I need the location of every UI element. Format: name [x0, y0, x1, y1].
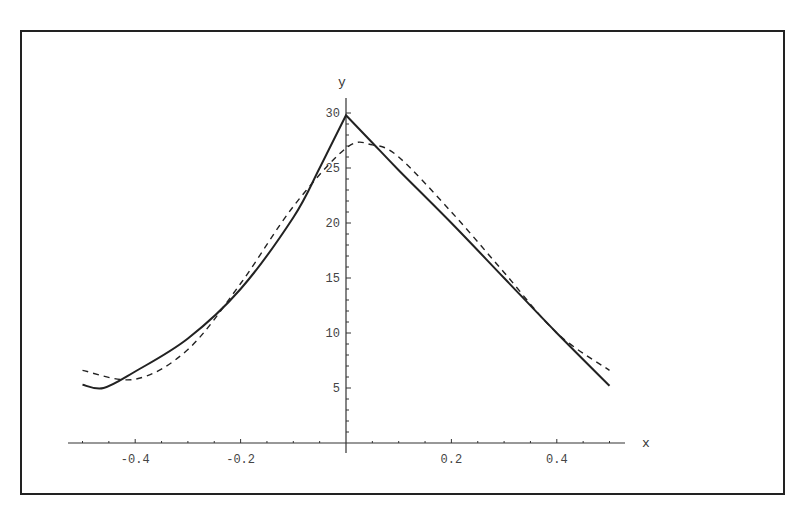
y-tick-label: 20: [326, 217, 340, 231]
plot-canvas: -0.4-0.20.20.451015202530 x y: [0, 0, 804, 517]
y-axis-label: y: [338, 75, 346, 90]
x-axis-label: x: [642, 436, 650, 451]
y-tick-label: 25: [326, 162, 340, 176]
y-tick-label: 30: [326, 107, 340, 121]
x-tick-label: 0.2: [441, 453, 463, 467]
plot-frame: [21, 31, 784, 494]
axes: -0.4-0.20.20.451015202530: [68, 98, 625, 467]
y-tick-label: 5: [333, 382, 340, 396]
y-tick-label: 10: [326, 327, 340, 341]
y-tick-label: 15: [326, 272, 340, 286]
x-tick-label: -0.4: [121, 453, 150, 467]
x-tick-label: -0.2: [226, 453, 255, 467]
x-tick-label: 0.4: [546, 453, 568, 467]
